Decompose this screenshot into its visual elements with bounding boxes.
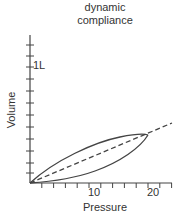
x-axis-ticks xyxy=(42,183,172,188)
plot-area xyxy=(0,0,179,220)
dynamic-compliance-line xyxy=(30,123,172,183)
